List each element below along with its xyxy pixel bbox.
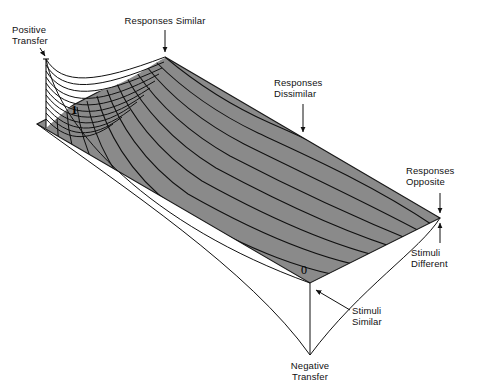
leader-positive-transfer — [40, 48, 45, 56]
label-stimuli-similar: Stimuli Similar — [352, 305, 382, 327]
transfer-surface-drawing — [0, 0, 479, 388]
label-responses-dissimilar: Responses Dissimilar — [274, 77, 322, 99]
label-positive-transfer: Positive Transfer — [12, 24, 48, 46]
label-negative-transfer: Negative Transfer — [256, 360, 364, 382]
axis-value-zero: 0 — [301, 263, 307, 278]
label-responses-similar: Responses Similar — [103, 15, 227, 26]
label-stimuli-different: Stimuli Different — [411, 247, 448, 269]
transfer-surface-figure: Positive Transfer Responses Similar Resp… — [0, 0, 479, 388]
label-responses-opposite: Responses Opposite — [406, 165, 454, 187]
leader-stimuli-similar — [316, 290, 350, 310]
axis-value-one: 1 — [71, 102, 78, 118]
